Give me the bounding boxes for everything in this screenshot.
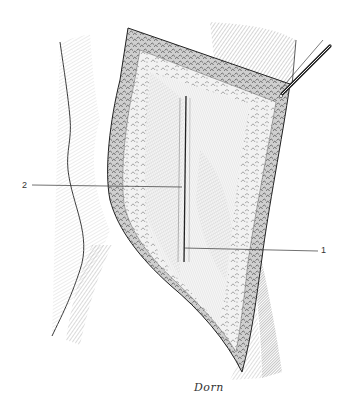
surgical-illustration — [0, 0, 354, 405]
label-2: 2 — [22, 180, 27, 190]
artist-signature: Dorn — [194, 381, 224, 394]
label-1: 1 — [321, 245, 326, 255]
